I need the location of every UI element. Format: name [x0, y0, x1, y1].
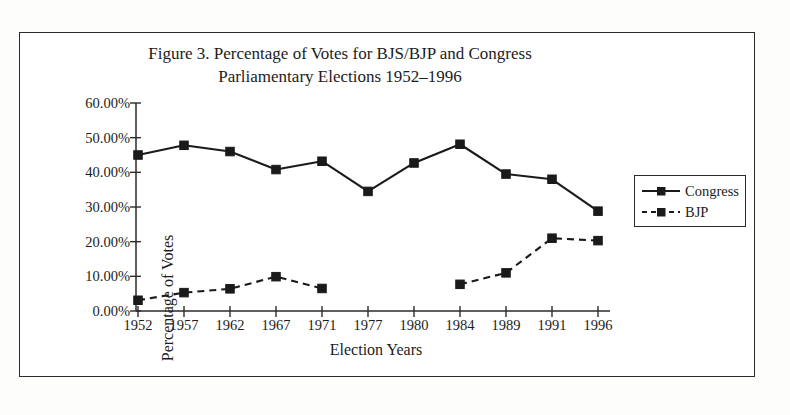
data-point-marker [318, 157, 327, 166]
y-axis-tick-label: 20.00% [64, 235, 130, 249]
data-point-marker [594, 236, 603, 245]
data-series-layer [134, 140, 603, 305]
chart-legend: CongressBJP [634, 175, 746, 227]
data-point-marker [548, 234, 557, 243]
data-point-marker [456, 280, 465, 289]
data-point-marker [502, 170, 511, 179]
legend-sample-congress [640, 181, 682, 201]
data-point-marker [410, 159, 419, 168]
legend-entry-bjp: BJP [640, 202, 742, 222]
plot-area: Percentage of Votes [136, 103, 610, 311]
series-line-congress [138, 144, 598, 211]
y-axis-tick-label: 40.00% [64, 165, 130, 179]
data-point-marker [456, 140, 465, 149]
chart-title: Figure 3. Percentage of Votes for BJS/BJ… [60, 42, 620, 88]
data-point-marker [272, 165, 281, 174]
data-point-marker [226, 285, 235, 294]
data-point-marker [364, 187, 373, 196]
axis-tick-marks [130, 103, 598, 317]
figure-root: Figure 3. Percentage of Votes for BJS/BJ… [0, 0, 790, 415]
series-line-bjp [460, 238, 598, 284]
x-axis-tick-label: 1996 [568, 316, 628, 334]
y-axis-tick-label: 10.00% [64, 269, 130, 283]
legend-label: Congress [685, 181, 739, 201]
data-point-marker [226, 147, 235, 156]
data-point-marker [502, 269, 511, 278]
x-axis-tick-labels: 1952195719621967197119771980198419891991… [136, 316, 610, 338]
data-point-marker [180, 288, 189, 297]
data-point-marker [134, 296, 143, 305]
legend-label: BJP [685, 202, 708, 222]
y-axis-tick-label: 50.00% [64, 131, 130, 145]
data-point-marker [594, 207, 603, 216]
legend-entry-congress: Congress [640, 181, 742, 201]
legend-sample-bjp [640, 202, 682, 222]
data-point-marker [272, 272, 281, 281]
y-axis-tick-label: 60.00% [64, 96, 130, 110]
data-point-marker [548, 175, 557, 184]
y-axis-title: Percentage of Votes [159, 203, 177, 393]
data-point-marker [180, 141, 189, 150]
axis-lines [136, 103, 610, 311]
y-axis-tick-labels: 0.00%10.00%20.00%30.00%40.00%50.00%60.00… [62, 103, 130, 311]
plot-svg [136, 103, 610, 311]
x-axis-title: Election Years [186, 341, 566, 359]
y-axis-tick-label: 30.00% [64, 200, 130, 214]
data-point-marker [134, 151, 143, 160]
data-point-marker [318, 284, 327, 293]
